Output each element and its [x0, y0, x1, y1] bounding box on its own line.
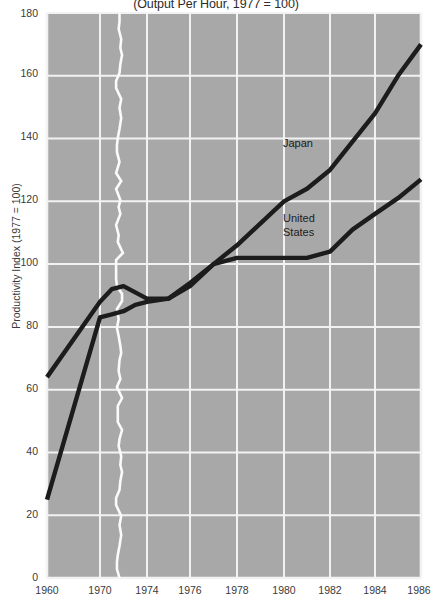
series-annotation-united-states-line2: States [283, 225, 314, 239]
plot-area [0, 0, 432, 601]
series-annotation-japan: Japan [283, 136, 313, 150]
productivity-chart: (Output Per Hour, 1977 = 100) Productivi… [0, 0, 432, 601]
series-annotation-united-states-line1: United [283, 211, 315, 225]
